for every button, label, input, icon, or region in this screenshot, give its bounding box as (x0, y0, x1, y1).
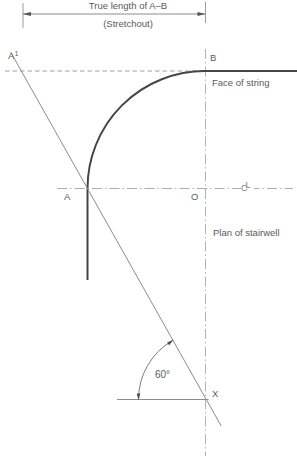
plan-of-stairwell-label: Plan of stairwell (213, 228, 280, 239)
centerline-symbol-icon: C L (241, 181, 254, 195)
development-diagonal-line (11, 52, 222, 426)
point-b-label: B (210, 53, 216, 64)
point-a1-label: A1 (8, 51, 18, 62)
angle-arc-arrow-top-icon (167, 340, 173, 345)
true-length-label: True length of A–B (89, 1, 167, 12)
face-of-string-label: Face of string (212, 78, 270, 89)
point-x-label: X (212, 389, 218, 400)
point-a-label: A (64, 192, 70, 203)
stairwell-diagram: True length of A–B (Stretchout) A1 B Fac… (0, 0, 297, 462)
stretchout-label: (Stretchout) (103, 19, 153, 30)
angle-value-label: 60° (155, 369, 170, 381)
dimension-arrow-left-icon (23, 12, 31, 16)
dimension-arrow-right-icon (198, 12, 206, 16)
string-arc (88, 71, 206, 189)
point-o-label: O (191, 192, 198, 203)
